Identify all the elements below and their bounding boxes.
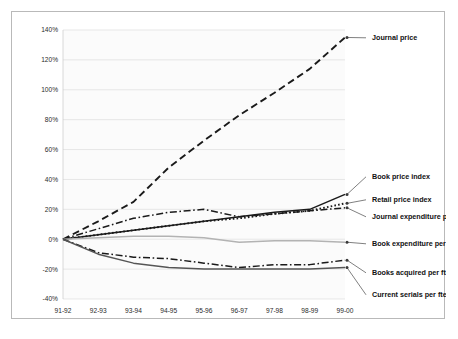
label-leader-arrowhead <box>346 266 349 269</box>
series-label: Current serials per fte <box>372 290 446 299</box>
line-chart-svg: 140%120%100%80%60%40%20%0%-20%-40%91-929… <box>12 12 446 320</box>
y-axis-tick-label: 60% <box>45 146 58 153</box>
label-leader-arrowhead <box>346 206 349 209</box>
x-axis-tick-label: 98-99 <box>301 307 318 314</box>
y-axis-tick-label: 0% <box>48 236 58 243</box>
x-axis-tick-label: 92-93 <box>90 307 107 314</box>
chart-figure: 140%120%100%80%60%40%20%0%-20%-40%91-929… <box>11 11 445 319</box>
y-axis-tick-label: 140% <box>41 26 58 33</box>
y-axis-tick-label: 80% <box>45 116 58 123</box>
label-leader-line <box>347 208 366 217</box>
y-axis-tick-label: 40% <box>45 176 58 183</box>
label-leader-line <box>347 268 366 295</box>
x-axis-tick-label: 97-98 <box>266 307 283 314</box>
x-axis-tick-label: 95-96 <box>196 307 213 314</box>
label-leader-arrowhead <box>346 193 349 196</box>
label-leader-arrowhead <box>346 202 349 205</box>
chart-plot-area: 140%120%100%80%60%40%20%0%-20%-40%91-929… <box>12 12 446 320</box>
label-leader-arrowhead <box>346 36 349 39</box>
label-leader-line <box>347 260 366 273</box>
series-label: Book price index <box>372 172 430 181</box>
series-label: Journal expenditure per fte <box>372 212 446 221</box>
label-leader-line <box>347 200 366 204</box>
label-leader-line <box>347 177 366 195</box>
y-axis-tick-label: -40% <box>43 295 59 302</box>
y-axis-tick-label: -20% <box>43 266 59 273</box>
x-axis-tick-label: 93-94 <box>125 307 142 314</box>
y-axis-tick-label: 120% <box>41 56 58 63</box>
series-label: Journal price <box>372 33 417 42</box>
y-axis-tick-label: 20% <box>45 206 58 213</box>
x-axis-tick-label: 91-92 <box>55 307 72 314</box>
y-axis-tick-label: 100% <box>41 86 58 93</box>
plot-background <box>63 30 345 299</box>
x-axis-tick-label: 96-97 <box>231 307 248 314</box>
series-label: Book expenditure per fte <box>372 239 446 248</box>
x-axis-tick-label: 99-00 <box>337 307 354 314</box>
label-leader-line <box>347 242 366 244</box>
label-leader-arrowhead <box>346 241 349 244</box>
series-label: Books acquired per fte <box>372 268 446 277</box>
label-leader-arrowhead <box>346 259 349 262</box>
x-axis-tick-label: 94-95 <box>160 307 177 314</box>
series-label: Retail price index <box>372 195 432 204</box>
